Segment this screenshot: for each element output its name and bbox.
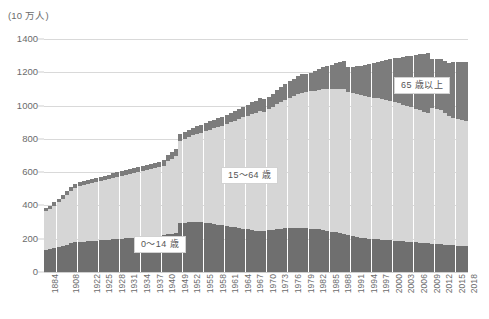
x-tick-label-1952: 1952 — [192, 274, 202, 293]
x-tick-label-1976: 1976 — [293, 274, 303, 293]
x-tick-label-1988: 1988 — [343, 274, 353, 293]
y-tick-label-1000: 1000 — [0, 101, 38, 111]
y-tick-label-400: 400 — [0, 201, 38, 211]
y-tick-label-800: 800 — [0, 134, 38, 144]
x-axis: 1884190819221925192819311934193719401949… — [44, 274, 468, 319]
x-tick-label-1997: 1997 — [381, 274, 391, 293]
x-tick-label-1884: 1884 — [50, 274, 60, 293]
x-tick-label-1970: 1970 — [268, 274, 278, 293]
x-tick-label-1991: 1991 — [356, 274, 366, 293]
annotation-age-15-64: 15〜64 歳 — [221, 167, 278, 184]
x-tick-label-2018: 2018 — [469, 274, 479, 293]
x-tick-label-2012: 2012 — [444, 274, 454, 293]
x-tick-label-1908: 1908 — [71, 274, 81, 293]
x-tick-label-1958: 1958 — [218, 274, 228, 293]
bar-series-container — [44, 39, 468, 272]
bar-segment-65-plus — [464, 62, 468, 121]
x-tick-label-1994: 1994 — [369, 274, 379, 293]
plot-area: 0〜14 歳 15〜64 歳 65 歳以上 — [44, 39, 468, 272]
x-tick-label-1925: 1925 — [104, 274, 114, 293]
x-tick-label-1934: 1934 — [142, 274, 152, 293]
x-tick-label-1928: 1928 — [117, 274, 127, 293]
x-tick-label-1955: 1955 — [205, 274, 215, 293]
bar-segment-15-64 — [464, 121, 468, 246]
x-tick-label-2003: 2003 — [406, 274, 416, 293]
x-tick-label-1937: 1937 — [155, 274, 165, 293]
x-tick-label-2006: 2006 — [419, 274, 429, 293]
x-tick-label-2015: 2015 — [457, 274, 467, 293]
x-tick-label-1949: 1949 — [180, 274, 190, 293]
x-tick-label-1973: 1973 — [280, 274, 290, 293]
x-tick-label-1982: 1982 — [318, 274, 328, 293]
annotation-age-65-plus: 65 歳以上 — [394, 77, 450, 94]
x-tick-label-1940: 1940 — [167, 274, 177, 293]
population-stacked-bar-chart: (10 万人) 0200400600800100012001400 0〜14 歳… — [0, 0, 489, 319]
x-tick-label-1985: 1985 — [331, 274, 341, 293]
x-tick-label-1922: 1922 — [92, 274, 102, 293]
y-tick-label-1400: 1400 — [0, 34, 38, 44]
y-tick-label-0: 0 — [0, 267, 38, 277]
x-tick-label-2009: 2009 — [432, 274, 442, 293]
x-tick-label-2000: 2000 — [394, 274, 404, 293]
bar-segment-0-14 — [464, 246, 468, 272]
y-tick-label-600: 600 — [0, 167, 38, 177]
annotation-age-0-14: 0〜14 歳 — [134, 236, 186, 253]
x-tick-label-1967: 1967 — [255, 274, 265, 293]
x-tick-label-1979: 1979 — [306, 274, 316, 293]
bar-2018 — [464, 62, 468, 272]
y-tick-label-200: 200 — [0, 234, 38, 244]
y-tick-label-1200: 1200 — [0, 68, 38, 78]
y-axis-unit-label: (10 万人) — [8, 8, 49, 22]
x-tick-label-1964: 1964 — [243, 274, 253, 293]
x-tick-label-1961: 1961 — [230, 274, 240, 293]
x-tick-label-1931: 1931 — [129, 274, 139, 293]
gridline-0 — [44, 272, 468, 273]
